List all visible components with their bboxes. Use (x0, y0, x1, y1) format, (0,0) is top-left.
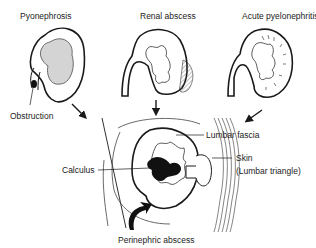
renal-abscess-kidney (122, 30, 193, 112)
pyonephrosis-kidney (30, 28, 84, 105)
diagram-canvas: Pyonephrosis Renal abscess Acute pyelone… (0, 0, 316, 248)
label-obstruction: Obstruction (10, 112, 53, 121)
label-lumbar-fascia: Lumbar fascia (206, 131, 259, 140)
label-perinephric-abscess: Perinephric abscess (118, 236, 195, 245)
label-skin: Skin (236, 154, 253, 163)
label-acute-pyelonephritis: Acute pyelonephritis (242, 12, 316, 21)
label-lumbar-triangle: (Lumbar triangle) (236, 167, 301, 176)
kidney-illustrations (0, 0, 316, 248)
label-renal-abscess: Renal abscess (140, 12, 196, 21)
label-pyonephrosis: Pyonephrosis (20, 12, 72, 21)
label-calculus: Calculus (62, 166, 95, 175)
acute-pyelonephritis-kidney (228, 29, 292, 120)
